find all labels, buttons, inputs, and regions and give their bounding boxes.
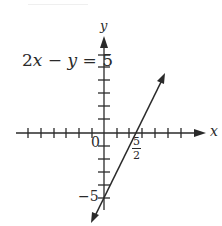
- y-axis-label: y: [100, 19, 107, 32]
- line-arrow-up-icon: [157, 73, 165, 84]
- x-intercept-label: 5 2: [132, 136, 141, 161]
- coordinate-plane: [0, 0, 222, 226]
- equation-label: 2x − y = 5: [22, 52, 113, 69]
- x-axis-arrow-icon: [194, 129, 206, 137]
- x-intercept-numerator: 5: [133, 136, 140, 147]
- x-axis-label: x: [210, 124, 218, 138]
- y-axis-arrow-icon: [100, 36, 108, 48]
- x-intercept-denominator: 2: [133, 150, 140, 161]
- line-arrow-down-icon: [91, 212, 99, 223]
- graph-line: [95, 80, 162, 216]
- y-intercept-label: −5: [78, 189, 99, 203]
- origin-label: 0: [91, 135, 100, 149]
